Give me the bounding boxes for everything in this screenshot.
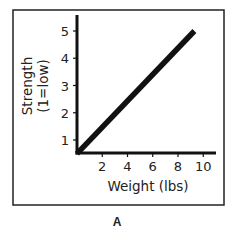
y-tick-label: 5 [61, 24, 69, 39]
chart: 24681012345 Weight (lbs) Strength (1=low… [0, 0, 233, 227]
y-tick-label: 3 [61, 79, 69, 94]
y-tick-label: 2 [61, 106, 69, 121]
x-axis-label: Weight (lbs) [107, 178, 188, 194]
series-line [77, 31, 194, 154]
panel-label: A [113, 215, 122, 227]
x-tick-label: 4 [123, 159, 131, 174]
x-tick-label: 2 [98, 159, 106, 174]
y-tick-label: 4 [61, 51, 69, 66]
y-tick-label: 1 [61, 133, 69, 148]
y-axis-label-line2: (1=low) [35, 59, 51, 113]
x-tick-label: 8 [174, 159, 182, 174]
x-tick-label: 10 [195, 159, 212, 174]
x-tick-label: 6 [149, 159, 157, 174]
y-axis-label-line1: Strength [19, 57, 35, 115]
